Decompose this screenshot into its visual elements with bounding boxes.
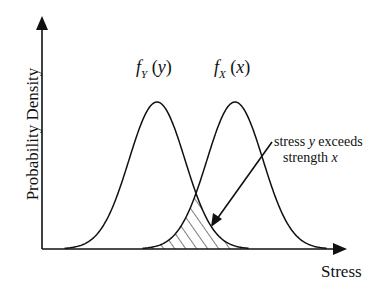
strength-curve-fx	[143, 102, 327, 248]
stress-curve-fy	[65, 102, 249, 248]
x-axis-label: Stress	[321, 262, 362, 282]
annotation-arrow-line	[217, 142, 272, 219]
interference-annotation: stress y exceeds strength x	[274, 134, 363, 166]
strength-curve-label: fX (x)	[214, 57, 250, 80]
x-axis-arrowhead	[333, 243, 347, 255]
y-axis-label: Probability Density	[23, 49, 43, 219]
y-axis-arrowhead	[36, 16, 48, 30]
overlap-hatched-region	[143, 194, 250, 249]
stress-curve-label: fY (y)	[136, 57, 172, 80]
